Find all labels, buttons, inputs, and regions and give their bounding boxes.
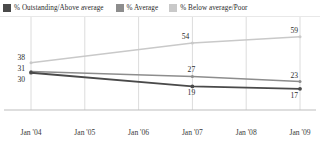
series-points	[29, 35, 302, 91]
x-tick-label-2: Jan '06	[128, 127, 149, 138]
value-label-2-1: 19	[188, 88, 196, 97]
value-label-2-0: 30	[17, 75, 25, 84]
data-point-1-2	[299, 80, 302, 83]
value-label-0-0: 38	[17, 53, 25, 62]
chart-svg: 385459312723301917	[0, 17, 320, 125]
data-point-0-1	[191, 41, 194, 44]
legend-swatch-average	[116, 4, 124, 12]
data-point-0-2	[299, 35, 302, 38]
legend-swatch-outstanding	[3, 4, 11, 12]
data-point-2-2	[298, 87, 302, 91]
x-tick-label-1: Jan '05	[74, 127, 95, 138]
legend-label-average: % Average	[127, 4, 159, 12]
value-label-1-0: 31	[17, 64, 25, 73]
data-point-1-1	[191, 75, 194, 78]
x-tick-label-0: Jan '04	[21, 127, 42, 138]
legend-item-outstanding: % Outstanding/Above average	[3, 4, 104, 12]
x-tick-label-4: Jan '08	[236, 127, 257, 138]
data-point-0-0	[30, 61, 33, 64]
value-label-0-2: 59	[290, 26, 298, 35]
x-tick-label-5: Jan '09	[290, 127, 311, 138]
legend-label-outstanding: % Outstanding/Above average	[14, 4, 104, 12]
legend-item-average: % Average	[116, 4, 159, 12]
value-label-2-2: 17	[290, 91, 298, 100]
series-lines	[31, 37, 300, 89]
legend-label-below-average: % Below average/Poor	[180, 4, 247, 12]
plot-area: 385459312723301917	[0, 17, 320, 125]
legend-swatch-below-average	[169, 4, 177, 12]
data-point-2-0	[29, 71, 33, 75]
chart-legend: % Outstanding/Above average % Average % …	[0, 0, 320, 16]
x-tick-label-3: Jan '07	[182, 127, 203, 138]
legend-item-below-average: % Below average/Poor	[169, 4, 247, 12]
series-line-0	[31, 37, 300, 63]
value-label-1-2: 23	[290, 71, 298, 80]
value-label-0-1: 54	[182, 32, 190, 41]
x-axis-labels: Jan '04Jan '05Jan '06Jan '07Jan '08Jan '…	[0, 127, 320, 141]
line-chart: % Outstanding/Above average % Average % …	[0, 0, 320, 149]
gridlines	[31, 17, 300, 110]
value-label-1-1: 27	[188, 65, 196, 74]
